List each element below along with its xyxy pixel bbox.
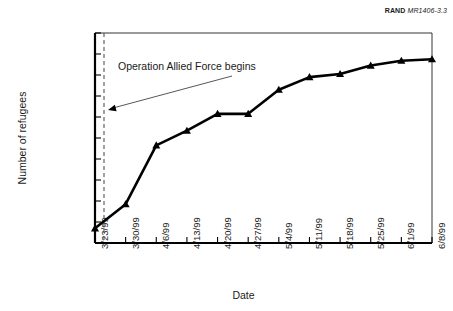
refugee-series-markers [91,55,436,231]
plot-area [0,0,453,311]
annotation-leader-arrow [108,76,232,111]
refugee-line-chart: RAND MR1406-3.3 Number of refugees Date … [0,0,453,311]
refugee-series-line [95,59,432,228]
